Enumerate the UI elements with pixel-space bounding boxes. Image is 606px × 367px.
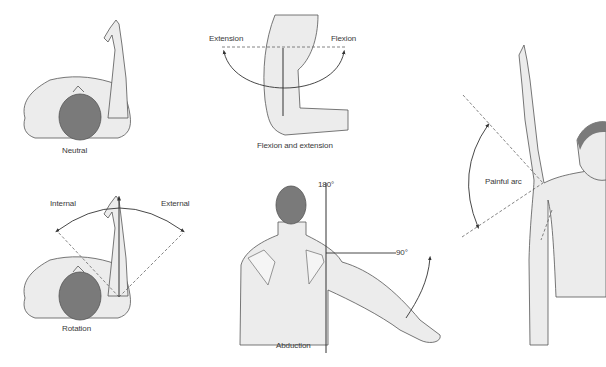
extension-label: Extension <box>209 34 243 43</box>
external-label: External <box>161 199 190 208</box>
abduction-figure <box>240 183 440 353</box>
abduction-caption: Abduction <box>276 341 311 350</box>
abduction-180-label: 180° <box>318 180 334 189</box>
flexion-extension-figure <box>222 15 348 135</box>
neutral-figure <box>24 20 130 140</box>
flexion-extension-caption: Flexion and extension <box>257 141 333 150</box>
neutral-caption: Neutral <box>62 146 87 155</box>
abduction-90-label: 90° <box>396 248 408 257</box>
painful-arc-caption: Painful arc <box>485 177 522 186</box>
flexion-label: Flexion <box>331 34 356 43</box>
painful-arc-figure <box>462 45 606 345</box>
rotation-caption: Rotation <box>62 324 91 333</box>
internal-label: Internal <box>50 199 76 208</box>
rotation-figure <box>24 196 183 320</box>
